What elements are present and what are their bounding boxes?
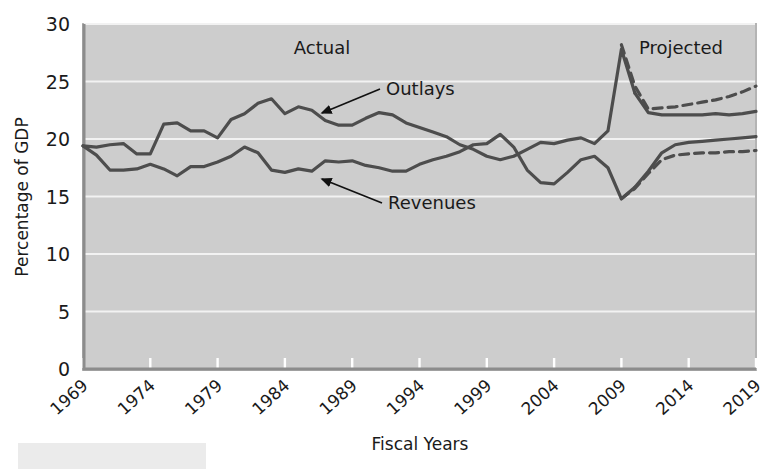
- y-tick-label-0: 0: [58, 358, 70, 380]
- x-tick-label-2009: 2009: [585, 375, 631, 419]
- y-tick-labels: 051015202530: [46, 13, 70, 380]
- annotation-projected: Projected: [639, 37, 723, 58]
- y-tick-label-25: 25: [46, 71, 70, 93]
- y-tick-label-20: 20: [46, 128, 70, 150]
- gdp-line-chart: 051015202530 196919741979198419891994199…: [0, 0, 784, 469]
- x-tick-label-1999: 1999: [450, 375, 496, 419]
- x-tick-label-2014: 2014: [652, 375, 698, 419]
- x-tick-labels: 1969197419791984198919941999200420092014…: [46, 375, 765, 419]
- x-tick-label-1989: 1989: [315, 375, 361, 419]
- x-tick-label-1969: 1969: [46, 375, 92, 419]
- x-tick-label-1984: 1984: [248, 375, 294, 419]
- annotation-revenues: Revenues: [388, 192, 476, 213]
- x-tick-label-2004: 2004: [517, 375, 563, 419]
- x-tick-label-1974: 1974: [113, 375, 159, 419]
- y-tick-label-5: 5: [58, 301, 70, 323]
- y-axis-title: Percentage of GDP: [12, 117, 32, 276]
- x-tick-label-1994: 1994: [383, 375, 429, 419]
- y-tick-label-15: 15: [46, 186, 70, 208]
- x-tick-label-2019: 2019: [719, 375, 765, 419]
- y-tick-label-30: 30: [46, 13, 70, 35]
- chart-figure: 051015202530 196919741979198419891994199…: [0, 0, 784, 469]
- annotation-outlays: Outlays: [386, 78, 455, 99]
- footer-gray-box: [18, 443, 206, 469]
- annotation-actual: Actual: [294, 37, 350, 58]
- x-axis-title: Fiscal Years: [372, 434, 469, 454]
- y-tick-label-10: 10: [46, 243, 70, 265]
- x-tick-label-1979: 1979: [181, 375, 227, 419]
